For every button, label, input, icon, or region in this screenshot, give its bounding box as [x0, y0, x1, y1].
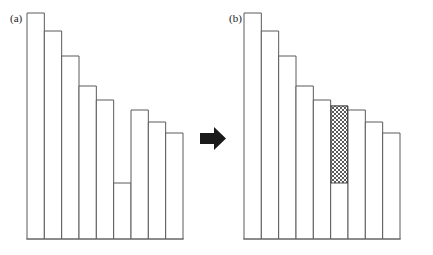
bar-2 [261, 31, 278, 239]
panel-a-bars [27, 13, 183, 239]
bar-3 [62, 56, 79, 239]
bar-3 [279, 56, 296, 239]
bar-8 [365, 122, 382, 239]
bar-1 [244, 13, 261, 239]
panel-b: (b) [217, 0, 433, 255]
bar-9 [166, 133, 183, 239]
bar-6 [114, 183, 131, 239]
panel-b-chart [217, 0, 433, 255]
bar-5 [96, 100, 113, 239]
hatched-fill-block [331, 106, 347, 183]
figure-root: (a) (b) [0, 0, 433, 255]
bar-4 [79, 86, 96, 239]
bar-8 [148, 122, 165, 239]
bar-4 [296, 86, 313, 239]
bar-1 [27, 13, 44, 239]
bar-7 [348, 110, 365, 239]
bar-5 [313, 100, 330, 239]
panel-a-chart [0, 0, 216, 255]
panel-b-bars [244, 13, 400, 239]
bar-7 [131, 110, 148, 239]
bar-2 [44, 31, 61, 239]
bar-9 [383, 133, 400, 239]
panel-a: (a) [0, 0, 216, 255]
